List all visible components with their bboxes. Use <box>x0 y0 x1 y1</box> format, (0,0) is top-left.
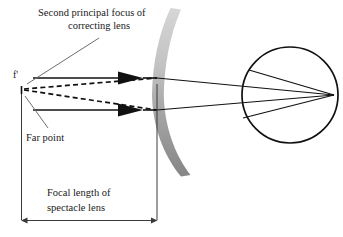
refracted-ray-upper <box>157 78 334 95</box>
virtual-diverging-rays <box>24 78 157 110</box>
spectacle-lens <box>152 8 191 177</box>
focal-length-label-line2: spectacle lens <box>47 202 105 213</box>
spectacle-lens-body <box>152 8 191 177</box>
leader-lines <box>25 38 99 128</box>
leader-far-point <box>25 96 48 128</box>
eyeball <box>242 47 338 143</box>
refracted-ray-lower <box>157 95 334 110</box>
focus-point-label: f' <box>13 69 18 80</box>
virtual-ray-lower <box>24 90 157 110</box>
virtual-ray-upper <box>24 78 157 89</box>
far-point-label: Far point <box>26 132 64 143</box>
leader-second-principal-focus <box>27 38 99 84</box>
second-principal-focus-label-line1: Second principal focus of <box>38 7 146 18</box>
eyeball-circle <box>242 47 338 143</box>
incident-ray-upper-arrowhead <box>118 72 143 85</box>
second-principal-focus-label-line2: correcting lens <box>68 20 130 31</box>
focal-length-label-line1: Focal length of <box>47 187 111 198</box>
optics-diagram-canvas: Second principal focus of correcting len… <box>0 0 343 237</box>
optics-diagram: Second principal focus of correcting len… <box>0 0 343 237</box>
